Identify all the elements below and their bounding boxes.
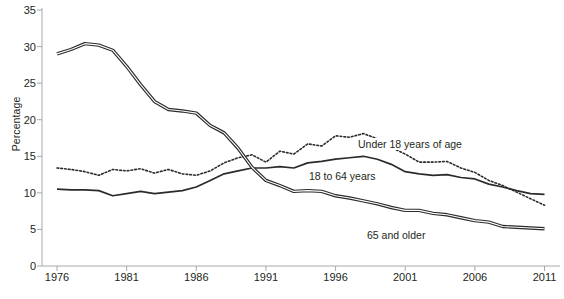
series-line-65-and-older-inner bbox=[57, 44, 545, 229]
annotation-18-to-64: 18 to 64 years bbox=[307, 170, 378, 182]
axes bbox=[37, 8, 560, 271]
chart-plot-area bbox=[0, 0, 564, 299]
annotation-65-and-older: 65 and older bbox=[365, 229, 427, 241]
series-lines bbox=[57, 44, 545, 229]
annotation-under-18: Under 18 years of age bbox=[356, 138, 464, 150]
series-line-under-18 bbox=[57, 134, 545, 206]
poverty-rate-line-chart: Percentage 35 30 25 20 15 10 5 0 1976 19… bbox=[0, 0, 564, 299]
